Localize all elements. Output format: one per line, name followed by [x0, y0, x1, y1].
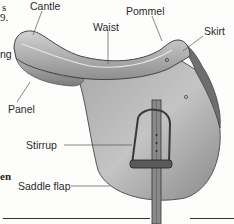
label-stirrup: Stirrup — [26, 139, 57, 151]
leader-pommel — [152, 16, 162, 41]
label-skirt: Skirt — [204, 25, 225, 37]
page-rule-right — [190, 218, 234, 219]
leader-cantle — [33, 11, 42, 35]
page-rule-left — [3, 218, 150, 219]
label-pommel: Pommel — [126, 5, 165, 17]
saddle-flap-shape — [78, 60, 220, 200]
label-saddle-flap: Saddle flap — [18, 180, 71, 192]
label-waist: Waist — [93, 21, 119, 33]
leader-panel — [17, 82, 30, 102]
book-page: s 9. ng en — [0, 0, 234, 224]
label-panel: Panel — [8, 103, 35, 115]
label-cantle: Cantle — [30, 0, 60, 12]
stirrup-tread — [130, 160, 172, 168]
